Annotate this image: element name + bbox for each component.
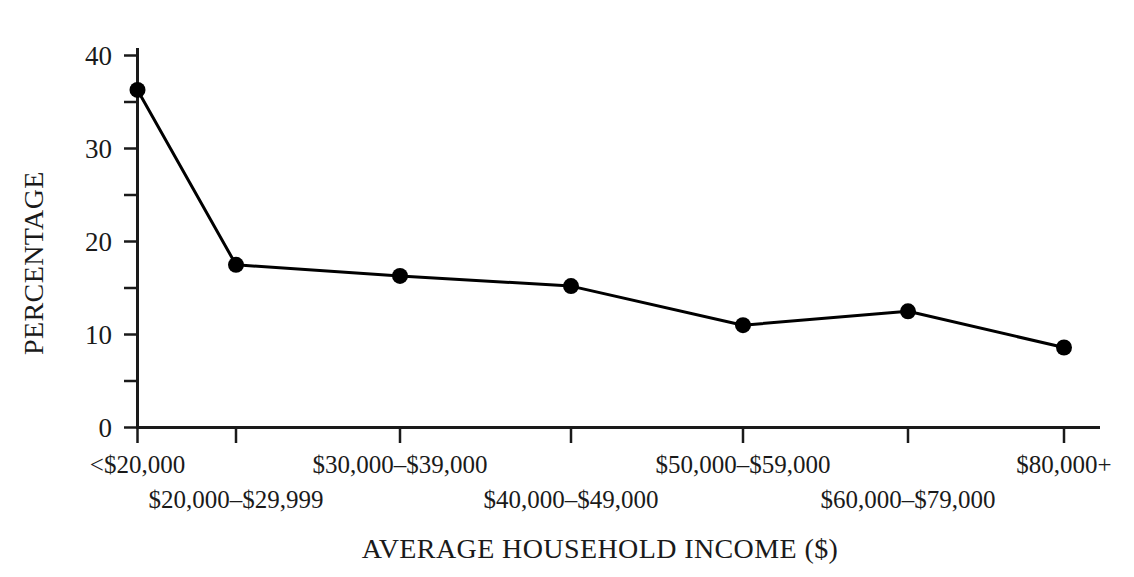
x-axis-tick-label: $30,000–$39,000 xyxy=(313,452,488,477)
y-axis-major-ticks xyxy=(124,56,138,428)
x-axis-tick-label: $20,000–$29,999 xyxy=(149,487,324,512)
y-axis-tick-label: 10 xyxy=(60,321,112,348)
x-axis-tick-label: $60,000–$79,000 xyxy=(821,487,996,512)
data-series-line xyxy=(138,90,1065,348)
y-axis-tick-label: 30 xyxy=(60,135,112,162)
x-axis-tick-label: <$20,000 xyxy=(90,452,185,477)
data-point xyxy=(392,268,408,284)
x-axis-title: AVERAGE HOUSEHOLD INCOME ($) xyxy=(362,533,839,565)
data-point xyxy=(130,82,146,98)
data-series-markers xyxy=(130,82,1073,356)
x-axis-tick-label: $80,000+ xyxy=(1016,452,1111,477)
x-axis-tick-label: $50,000–$59,000 xyxy=(656,452,831,477)
y-axis-tick-label: 40 xyxy=(60,42,112,69)
data-point xyxy=(1056,340,1072,356)
y-axis-title: PERCENTAGE xyxy=(18,0,50,355)
y-axis-tick-label: 20 xyxy=(60,228,112,255)
data-point xyxy=(735,317,751,333)
data-point xyxy=(900,303,916,319)
chart-figure: 010203040 <$20,000$20,000–$29,999$30,000… xyxy=(0,0,1134,577)
x-axis-tick-label: $40,000–$49,000 xyxy=(484,487,659,512)
x-axis-ticks xyxy=(138,428,1065,444)
y-axis-tick-label: 0 xyxy=(60,414,112,441)
data-point xyxy=(563,278,579,294)
data-point xyxy=(228,257,244,273)
